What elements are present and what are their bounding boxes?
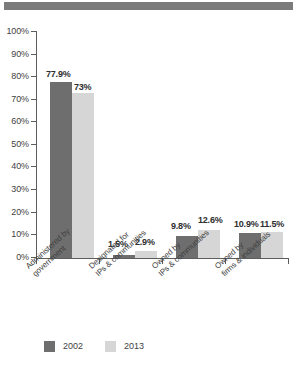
chart-legend: 2002 2013 xyxy=(0,340,297,360)
y-tick-label: 10% xyxy=(0,230,29,239)
legend-item-2013: 2013 xyxy=(105,340,144,352)
legend-label-2013: 2013 xyxy=(124,342,144,351)
bar-value-2013-group-3: 12.6% xyxy=(198,216,223,225)
legend-swatch-2013 xyxy=(105,341,116,352)
y-tick-label: 80% xyxy=(0,72,29,81)
y-tick-label: 60% xyxy=(0,117,29,126)
x-axis-tick xyxy=(288,259,289,264)
bar-chart: 100% 90% 80% 70% 60% 50% 40% 30% 20% 10%… xyxy=(0,12,297,332)
y-tick-label: 0% xyxy=(0,253,29,262)
y-tick-label: 100% xyxy=(0,27,29,36)
y-tick-label: 20% xyxy=(0,208,29,217)
legend-label-2002: 2002 xyxy=(63,342,83,351)
y-tick-label: 90% xyxy=(0,50,29,59)
legend-item-2002: 2002 xyxy=(44,340,83,352)
plot-area: 77.9% 73% 1.5% 2.9% 9.8% 12.6% 10.9% 11.… xyxy=(36,32,289,258)
bar-value-2013-group-1: 73% xyxy=(74,83,91,92)
y-tick-label: 70% xyxy=(0,95,29,104)
y-tick-label: 40% xyxy=(0,162,29,171)
y-tick-label: 50% xyxy=(0,140,29,149)
bar-2013-group-2 xyxy=(135,251,157,258)
legend-swatch-2002 xyxy=(44,341,55,352)
y-tick-label: 30% xyxy=(0,185,29,194)
top-header-bar xyxy=(4,2,293,10)
bar-2013-group-1 xyxy=(72,93,94,258)
bar-value-2002-group-1: 77.9% xyxy=(46,70,71,79)
